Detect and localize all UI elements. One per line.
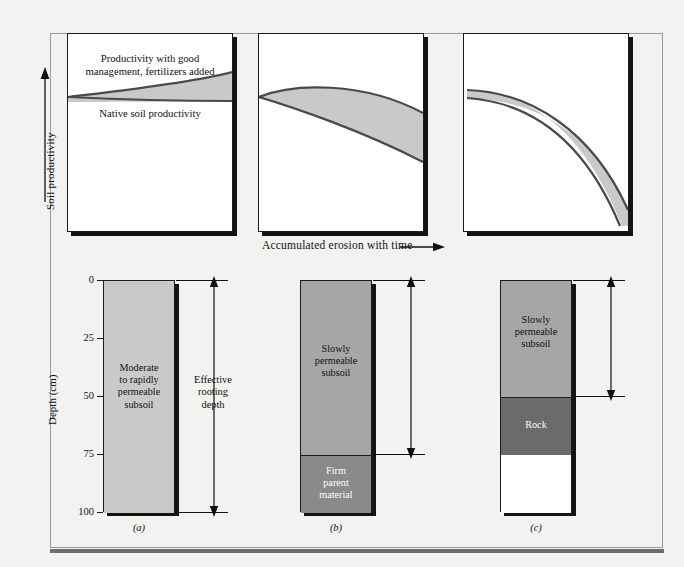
rooting-depth-arrow-b-icon — [373, 274, 437, 466]
soil-column-c: Slowly permeable subsoil Rock — [500, 280, 572, 512]
soil-layer-c-empty — [501, 455, 571, 513]
depth-tick-0: 0 — [62, 274, 94, 285]
soil-layer-b-subsoil-label: Slowly permeable subsoil — [301, 343, 371, 380]
depth-tick-100: 100 — [58, 506, 94, 517]
erosion-arrow-icon — [400, 241, 446, 253]
chart-c-band — [467, 90, 628, 226]
rooting-depth-arrow-c-icon — [573, 274, 637, 408]
chart-b-frame — [258, 33, 424, 232]
chart-a-native-text: Native soil productivity — [99, 107, 201, 119]
soil-column-b: Slowly permeable subsoil Firm parent mat… — [300, 280, 372, 512]
soil-productivity-arrow-icon — [38, 66, 52, 206]
soil-layer-c-rock-label: Rock — [501, 419, 571, 431]
depth-tick-25: 25 — [62, 332, 94, 343]
chart-a-managed-annotation: Productivity with good management, ferti… — [67, 52, 233, 77]
panel-label-c: (c) — [500, 522, 572, 533]
soil-column-a: Moderate to rapidly permeable subsoil — [103, 280, 175, 512]
soil-layer-b-parent-material-label: Firm parent material — [301, 465, 371, 502]
chart-a-managed-line2: management, fertilizers added — [85, 65, 214, 77]
chart-a-native-annotation: Native soil productivity — [67, 107, 233, 120]
rooting-depth-label-a: Effective rooting depth — [180, 374, 246, 411]
chart-c-frame — [463, 33, 629, 232]
figure-bottom-rule — [50, 549, 664, 553]
erosion-axis-text: Accumulated erosion with time — [262, 239, 412, 251]
chart-a-managed-line1: Productivity with good — [101, 52, 200, 64]
soil-layer-c-subsoil-label: Slowly permeable subsoil — [501, 314, 571, 351]
erosion-axis-label: Accumulated erosion with time — [262, 239, 412, 251]
depth-tick-50: 50 — [62, 390, 94, 401]
panel-label-a: (a) — [103, 522, 175, 533]
figure-root: Soil productivity Productivity with good… — [0, 0, 684, 567]
depth-tick-75: 75 — [62, 448, 94, 459]
depth-axis-label: Depth (cm) — [46, 375, 58, 425]
depth-axis-text: Depth (cm) — [46, 375, 58, 425]
panel-label-b: (b) — [300, 522, 372, 533]
chart-c-plot — [464, 34, 628, 231]
depth-tickmark-100 — [97, 512, 103, 513]
chart-b-plot — [259, 34, 423, 231]
soil-layer-a-subsoil-label: Moderate to rapidly permeable subsoil — [104, 362, 174, 411]
